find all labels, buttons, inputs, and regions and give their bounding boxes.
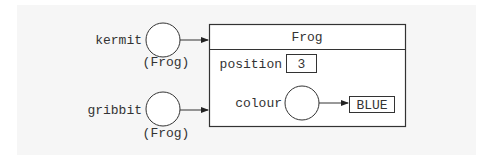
reference-circle-icon [285,86,319,120]
reference-type-label: (Frog) [143,126,190,141]
object-class-name: Frog [291,30,322,45]
reference-circle-icon [146,23,180,57]
reference-circle-icon [146,92,180,126]
object-frog: Frog position 3 colour BLUE [210,25,406,127]
reference-gribbit: gribbit (Frog) [87,92,208,141]
field-value: 3 [298,57,306,72]
field-name: position [220,57,282,72]
field-position: position 3 [220,55,317,73]
reference-name: gribbit [87,103,142,118]
reference-kermit: kermit (Frog) [95,23,208,70]
enum-value: BLUE [356,98,387,113]
reference-type-label: (Frog) [143,55,190,70]
diagram-canvas: kermit (Frog) gribbit (Frog) Frog positi… [0,0,495,166]
reference-name: kermit [95,33,142,48]
field-name: colour [235,96,282,111]
